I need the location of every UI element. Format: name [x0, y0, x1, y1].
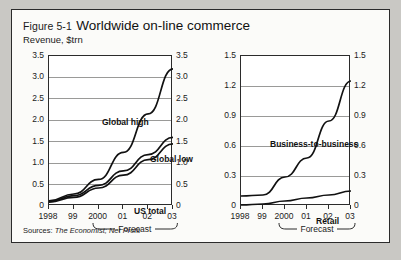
series-label-business-to-business: Business-to-business — [270, 140, 358, 149]
y-axis-tick-label: 2.5 — [18, 94, 44, 103]
series-label-global-low: Global low — [150, 155, 190, 164]
x-axis-tick-mark — [350, 205, 351, 209]
y-axis-tick-label-mirror: 3.0 — [176, 72, 188, 81]
chart-panel-left: 000.50.51.01.01.51.52.02.02.52.53.03.03.… — [12, 10, 208, 244]
chart-panel-right: 000.30.30.60.60.90.91.21.21.51.519989920… — [208, 10, 391, 244]
plot-area-left — [48, 55, 172, 205]
x-axis-tick-mark — [122, 205, 123, 209]
y-axis-tick-label: 3.5 — [18, 51, 44, 60]
y-axis-tick-label: 2.0 — [18, 115, 44, 124]
x-axis-tick-mark — [262, 205, 263, 209]
series-label-us-total: US total — [134, 207, 166, 216]
y-axis-tick-label: 0 — [210, 201, 236, 210]
series-line — [241, 191, 351, 205]
y-axis-tick-label-mirror: 0 — [354, 201, 359, 210]
series-label-global-high: Global high — [102, 118, 149, 127]
y-axis-tick-label: 3.0 — [18, 72, 44, 81]
sources-note: Sources: The Economist; Net Profit — [23, 226, 140, 235]
x-axis-tick-mark — [73, 205, 74, 209]
y-axis-tick-label-mirror: 0 — [176, 201, 181, 210]
y-axis-tick-label: 1.5 — [18, 137, 44, 146]
y-axis-tick-label: 0.3 — [210, 171, 236, 180]
sources-label: Sources: — [23, 226, 53, 235]
y-axis-tick-label: 1.2 — [210, 81, 236, 90]
x-axis-tick-mark — [98, 205, 99, 209]
x-axis-tick-mark — [172, 205, 173, 209]
y-axis-tick-label: 1.0 — [18, 158, 44, 167]
y-axis-tick-label-mirror: 0.5 — [176, 180, 188, 189]
series-line — [49, 137, 173, 201]
y-axis-tick-label-mirror: 1.5 — [176, 137, 188, 146]
forecast-label: Forecast — [297, 224, 337, 234]
y-axis-tick-label: 0 — [18, 201, 44, 210]
y-axis-tick-label-mirror: 0.3 — [354, 171, 366, 180]
sources-value: The Economist; Net Profit — [55, 226, 140, 235]
y-axis-tick-label: 1.5 — [210, 51, 236, 60]
y-axis-tick-label-mirror: 2.0 — [176, 115, 188, 124]
x-axis-tick-mark — [240, 205, 241, 209]
y-axis-tick-label-mirror: 1.5 — [354, 51, 366, 60]
x-axis-tick-mark — [284, 205, 285, 209]
x-axis-tick-mark — [48, 205, 49, 209]
y-axis-tick-label: 0.6 — [210, 141, 236, 150]
series-lines — [241, 56, 353, 208]
y-axis-tick-label-mirror: 3.5 — [176, 51, 188, 60]
figure-container: Figure 5-1 Worldwide on-line commerce Re… — [11, 9, 390, 243]
y-axis-tick-label-mirror: 1.2 — [354, 81, 366, 90]
y-axis-tick-label-mirror: 0.9 — [354, 111, 366, 120]
y-axis-tick-label: 0.5 — [18, 180, 44, 189]
x-axis-tick-mark — [306, 205, 307, 209]
x-axis-tick-mark — [328, 205, 329, 209]
plot-area-right — [240, 55, 350, 205]
y-axis-tick-label: 0.9 — [210, 111, 236, 120]
series-lines — [49, 56, 175, 208]
y-axis-tick-label-mirror: 2.5 — [176, 94, 188, 103]
